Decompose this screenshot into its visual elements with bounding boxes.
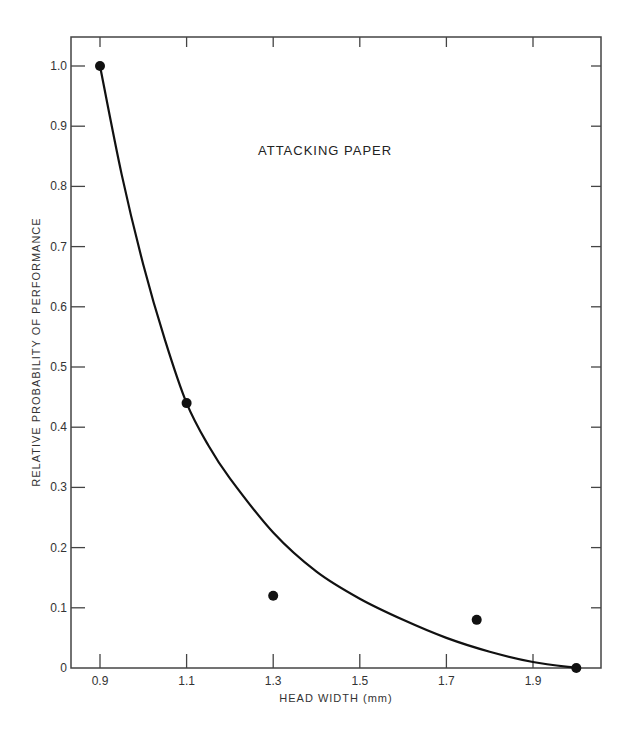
x-axis-title: HEAD WIDTH (mm) <box>279 692 392 704</box>
x-tick-label: 1.9 <box>525 674 542 688</box>
data-point <box>95 61 105 71</box>
x-tick-label: 0.9 <box>92 674 109 688</box>
y-tick-label: 1.0 <box>50 59 67 73</box>
y-tick-label: 0.6 <box>50 300 67 314</box>
y-tick-label: 0.4 <box>50 420 67 434</box>
y-tick-label: 0.9 <box>50 119 67 133</box>
x-tick-label: 1.5 <box>351 674 368 688</box>
y-tick-label: 0 <box>60 661 67 675</box>
y-tick-label: 0.5 <box>50 360 67 374</box>
data-point <box>182 398 192 408</box>
x-tick-label: 1.3 <box>265 674 282 688</box>
y-tick-label: 0.8 <box>50 179 67 193</box>
x-tick-label: 1.7 <box>438 674 455 688</box>
y-tick-label: 0.1 <box>50 601 67 615</box>
y-tick-label: 0.7 <box>50 240 67 254</box>
data-point <box>268 591 278 601</box>
data-point <box>472 615 482 625</box>
y-tick-label: 0.3 <box>50 480 67 494</box>
x-tick-label: 1.1 <box>178 674 195 688</box>
chart: 00.10.20.30.40.50.60.70.80.91.0 0.91.11.… <box>0 0 627 732</box>
chart-annotation: ATTACKING PAPER <box>258 143 392 158</box>
plot-frame <box>71 37 601 668</box>
x-axis-ticks: 0.91.11.31.51.71.9 <box>92 37 542 688</box>
y-axis-title: RELATIVE PROBABILITY OF PERFORMANCE <box>30 217 42 486</box>
y-tick-label: 0.2 <box>50 541 67 555</box>
data-point <box>571 663 581 673</box>
